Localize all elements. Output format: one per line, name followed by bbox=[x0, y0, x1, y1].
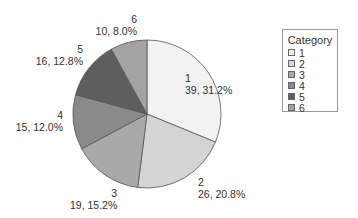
slice-label-2: 2 26, 20.8% bbox=[198, 176, 245, 200]
legend-swatch-6 bbox=[288, 104, 295, 111]
slice-label-4-category: 4 bbox=[10, 109, 63, 121]
legend-swatch-1 bbox=[288, 49, 295, 56]
slice-label-3-category: 3 bbox=[70, 187, 117, 199]
slice-label-4: 4 15, 12.0% bbox=[10, 109, 63, 133]
slice-label-5-category: 5 bbox=[30, 43, 83, 55]
legend-swatch-4 bbox=[288, 82, 295, 89]
slice-label-1: 1 39, 31.2% bbox=[185, 72, 232, 96]
legend-swatch-5 bbox=[288, 93, 295, 100]
legend-label-6: 6 bbox=[299, 102, 305, 114]
legend-item-4: 4 bbox=[288, 80, 337, 91]
legend-swatch-2 bbox=[288, 60, 295, 67]
slice-label-6-value: 10, 8.0% bbox=[90, 25, 137, 37]
legend-item-1: 1 bbox=[288, 47, 337, 58]
slice-label-6-category: 6 bbox=[90, 13, 137, 25]
slice-label-2-category: 2 bbox=[198, 176, 245, 188]
slice-label-5: 5 16, 12.8% bbox=[30, 43, 83, 67]
legend-items: 123456 bbox=[283, 47, 337, 113]
legend-title: Category bbox=[283, 34, 337, 46]
legend-swatch-3 bbox=[288, 71, 295, 78]
legend-item-2: 2 bbox=[288, 58, 337, 69]
legend: Category 123456 bbox=[282, 29, 338, 112]
slice-label-3: 3 19, 15.2% bbox=[70, 187, 117, 211]
legend-item-5: 5 bbox=[288, 91, 337, 102]
slice-label-1-value: 39, 31.2% bbox=[185, 84, 232, 96]
slice-label-6: 6 10, 8.0% bbox=[90, 13, 137, 37]
legend-item-6: 6 bbox=[288, 102, 337, 113]
slice-label-3-value: 19, 15.2% bbox=[70, 199, 117, 211]
slice-label-2-value: 26, 20.8% bbox=[198, 188, 245, 200]
legend-item-3: 3 bbox=[288, 69, 337, 80]
slice-label-1-category: 1 bbox=[185, 72, 232, 84]
slice-label-5-value: 16, 12.8% bbox=[30, 55, 83, 67]
slice-label-4-value: 15, 12.0% bbox=[10, 121, 63, 133]
